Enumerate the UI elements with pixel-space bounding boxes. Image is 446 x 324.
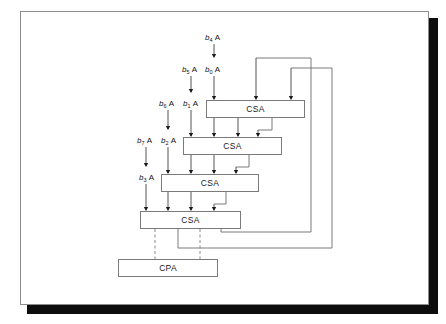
block-cpa[interactable]: CPA	[118, 259, 218, 277]
operand-label-b1a: b1 A	[183, 99, 198, 108]
block-csa-1-label: CSA	[246, 104, 264, 114]
block-csa-1[interactable]: CSA	[206, 100, 305, 118]
block-csa-2-label: CSA	[223, 141, 241, 151]
operand-label-b0a: b0 A	[205, 65, 220, 74]
block-cpa-label: CPA	[159, 263, 177, 273]
operand-label-b4a: b4 A	[205, 33, 220, 42]
operand-label-b3a: b3 A	[139, 173, 154, 182]
block-csa-4-label: CSA	[181, 215, 199, 225]
figure-stage: CSA CSA CSA CSA CPA b4 A b5 A b0 A b6 A …	[0, 0, 446, 324]
operand-label-b2a: b2 A	[161, 136, 176, 145]
block-csa-3-label: CSA	[201, 178, 219, 188]
block-csa-3[interactable]: CSA	[161, 174, 259, 192]
diagram-wiring	[0, 0, 446, 324]
block-csa-4[interactable]: CSA	[140, 211, 241, 229]
block-csa-2[interactable]: CSA	[183, 137, 282, 155]
operand-label-b7a: b7 A	[137, 136, 152, 145]
operand-label-b6a: b6 A	[159, 99, 174, 108]
operand-label-b5a: b5 A	[182, 65, 197, 74]
